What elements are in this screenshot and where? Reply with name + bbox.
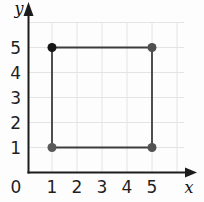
y-tick-label: 4 <box>10 63 21 83</box>
origin-label: 0 <box>11 177 22 197</box>
x-tick-label: 5 <box>147 177 158 197</box>
coordinate-plane-figure: 01234512345 y x <box>0 0 204 202</box>
y-tick-label: 3 <box>10 88 21 108</box>
x-tick-label: 3 <box>97 177 108 197</box>
plot-canvas: 01234512345 y x <box>0 0 204 202</box>
vertex-point <box>48 143 57 152</box>
vertex-point <box>48 43 57 52</box>
y-tick-label: 1 <box>10 138 21 158</box>
y-tick-label: 2 <box>10 113 21 133</box>
x-axis-label: x <box>184 178 193 197</box>
y-axis-label: y <box>13 0 24 18</box>
y-tick-label: 5 <box>10 38 21 58</box>
vertex-point <box>148 43 157 52</box>
vertex-point <box>148 143 157 152</box>
x-tick-label: 2 <box>72 177 83 197</box>
x-tick-label: 4 <box>122 177 133 197</box>
x-tick-label: 1 <box>47 177 58 197</box>
